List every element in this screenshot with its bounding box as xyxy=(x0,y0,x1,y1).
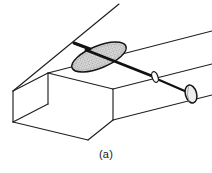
damper-shaft-outer xyxy=(157,79,187,92)
damper-pivot-pin xyxy=(74,43,90,49)
damper-plate xyxy=(68,36,130,78)
shaft-bushing xyxy=(150,71,159,84)
damper-plate-ellipse xyxy=(68,36,130,78)
shaft-bushing-ellipse xyxy=(150,71,159,84)
duct-front-top-edge xyxy=(48,73,113,89)
duct xyxy=(13,4,212,140)
duct-front-bottom-edge xyxy=(13,122,88,140)
figure-caption: (a) xyxy=(0,148,212,160)
figure-container: (a) xyxy=(0,0,212,173)
duct-front-bottom-right-edge xyxy=(88,120,113,140)
duct-open-end-top-edge xyxy=(13,73,48,91)
duct-open-end-bottom-edge xyxy=(13,104,48,122)
